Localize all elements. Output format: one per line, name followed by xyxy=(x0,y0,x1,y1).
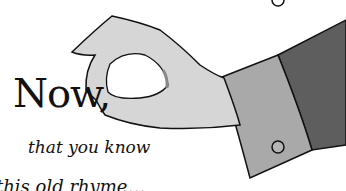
heading: Now, xyxy=(13,70,110,116)
partial-text-line: this old rhyme… xyxy=(0,176,145,191)
subheading: that you know xyxy=(28,137,150,157)
cufflink-icon xyxy=(272,141,284,153)
